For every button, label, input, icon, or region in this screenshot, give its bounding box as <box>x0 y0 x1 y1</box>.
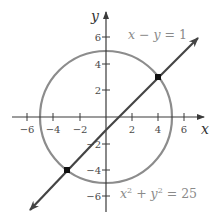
y-tick-label: 4 <box>95 59 101 70</box>
circle-equation-label: x2 + y2 = 25 <box>120 186 197 201</box>
x-tick-label: 2 <box>129 124 135 135</box>
intersection-point <box>64 167 70 173</box>
x-axis-label: x <box>201 121 209 137</box>
y-tick-label: 6 <box>95 32 101 43</box>
line-equation-label: x − y = 1 <box>128 27 187 42</box>
x-tick-label: 4 <box>155 124 161 135</box>
x-tick-label: −4 <box>46 124 61 135</box>
y-axis-label: y <box>90 8 100 24</box>
y-tick-label: −4 <box>86 165 101 176</box>
graph: −6 −4 −2 2 4 6 6 4 2 −2 −4 −6 x y x − y … <box>0 0 219 223</box>
intersection-point <box>155 74 161 80</box>
x-tick-label: −2 <box>73 124 88 135</box>
x-tick-label: 6 <box>181 124 187 135</box>
x-tick-label: −6 <box>20 124 35 135</box>
y-tick-label: −6 <box>86 191 101 202</box>
y-tick-label: 2 <box>95 85 101 96</box>
